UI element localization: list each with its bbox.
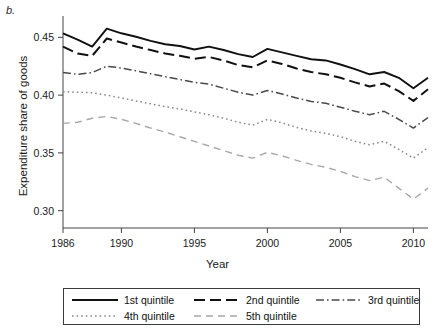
x-tick-label: 2000 bbox=[256, 237, 280, 249]
x-tick-label: 1986 bbox=[51, 237, 75, 249]
series-line bbox=[63, 116, 428, 199]
x-axis-ticks: 198619901995200020052010 bbox=[51, 228, 425, 249]
legend-line-swatch bbox=[194, 296, 240, 304]
series-line bbox=[63, 66, 428, 128]
y-axis-ticks: 0.300.350.400.45 bbox=[34, 31, 63, 216]
x-tick-label: 1995 bbox=[183, 237, 207, 249]
legend-item-2[interactable]: 2nd quintile bbox=[186, 294, 308, 306]
y-tick-label: 0.35 bbox=[34, 147, 55, 159]
y-tick-label: 0.45 bbox=[34, 31, 55, 43]
series-line bbox=[63, 29, 428, 89]
x-axis-label: Year bbox=[0, 258, 435, 270]
line-chart-plot: 0.300.350.400.45 19861990199520002005201… bbox=[0, 0, 435, 250]
legend-label: 2nd quintile bbox=[246, 294, 300, 306]
legend-line-swatch bbox=[194, 312, 240, 320]
x-tick-label: 2010 bbox=[402, 237, 426, 249]
y-tick-label: 0.40 bbox=[34, 89, 55, 101]
legend-line-swatch bbox=[72, 296, 118, 304]
legend-line-swatch bbox=[316, 296, 362, 304]
legend-label: 4th quintile bbox=[124, 310, 175, 322]
series-line bbox=[63, 92, 428, 158]
data-series-group bbox=[63, 29, 428, 199]
axis-lines bbox=[63, 16, 428, 228]
legend-item-5[interactable]: 5th quintile bbox=[186, 310, 308, 322]
legend-item-3[interactable]: 3rd quintile bbox=[308, 294, 421, 306]
legend-line-swatch bbox=[72, 312, 118, 320]
legend-label: 1st quintile bbox=[124, 294, 174, 306]
x-tick-label: 2005 bbox=[329, 237, 353, 249]
legend-item-4[interactable]: 4th quintile bbox=[64, 310, 186, 322]
legend-label: 5th quintile bbox=[246, 310, 297, 322]
chart-legend: 1st quintile2nd quintile3rd quintile4th … bbox=[63, 288, 420, 325]
legend-label: 3rd quintile bbox=[368, 294, 419, 306]
x-tick-label: 1990 bbox=[110, 237, 134, 249]
series-line bbox=[63, 38, 428, 100]
legend-item-1[interactable]: 1st quintile bbox=[64, 294, 186, 306]
y-tick-label: 0.30 bbox=[34, 205, 55, 217]
